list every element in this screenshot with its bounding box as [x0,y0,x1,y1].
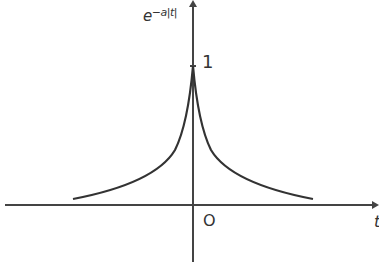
x-axis-arrow-icon [372,201,379,209]
curve-right [193,66,313,199]
plot-svg [0,0,379,270]
curve-left [73,66,193,199]
origin-label: O [203,211,216,230]
x-axis-label: t [374,212,379,231]
y-axis-label: e−a|t| [143,6,177,25]
peak-label: 1 [202,51,213,72]
diagram-canvas: e−a|t| 1 O t [0,0,379,270]
y-axis-arrow-icon [189,0,197,7]
